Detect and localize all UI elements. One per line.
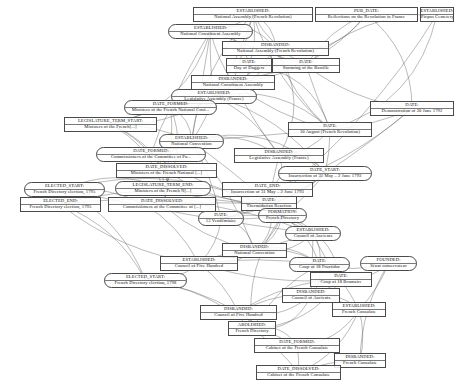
graph-node[interactable]: ESTABLISHED:National Constituent Assembl…: [168, 24, 253, 39]
graph-node[interactable]: DATE:10 August (French Revolution): [288, 122, 372, 137]
node-entity-label: Council of Ancients: [286, 233, 340, 239]
node-entity-label: National Assembly (French Revolution): [194, 14, 312, 20]
graph-node[interactable]: DISBANDED:French Consulate: [334, 353, 386, 368]
node-entity-label: French Directory election, 1798: [105, 280, 186, 286]
graph-node[interactable]: PUB_DATE:Reflections on the Revolution i…: [315, 7, 418, 22]
node-entity-label: Insurrection of 31 May – 2 June 1793: [223, 189, 312, 195]
graph-node[interactable]: DATE:Coup of 18 Fructidor: [289, 257, 350, 272]
graph-node[interactable]: DATE_FORMED:Commissioners of the Committ…: [96, 147, 206, 162]
graph-node[interactable]: DATE:Coup of 18 Brumaire: [310, 272, 372, 287]
node-entity-label: Coup of 18 Fructidor: [290, 264, 349, 270]
node-entity-label: National Convention: [160, 141, 223, 147]
graph-node[interactable]: DATE:Storming of the Bastille: [272, 58, 340, 73]
graph-node[interactable]: DATE_END:Insurrection of 31 May – 2 June…: [222, 182, 313, 197]
graph-node[interactable]: ESTABLISHED:Picpus Cemetery: [420, 7, 454, 22]
graph-node[interactable]: DATE:13 Vendémiaire: [198, 211, 244, 226]
graph-edge: [61, 205, 200, 264]
graph-edge: [306, 66, 330, 130]
graph-node[interactable]: ELECTED_END:French Directory election, 1…: [20, 197, 101, 212]
graph-node[interactable]: DATE_START:Insurrection of 31 May – 2 Ju…: [278, 166, 372, 181]
node-entity-label: French Directory: [259, 215, 306, 221]
node-entity-label: Sénat conservateur: [361, 263, 416, 269]
node-entity-label: Ministers of the French N[...]: [116, 188, 210, 194]
graph-node[interactable]: DATE_DISSOLVED:Ministers of the French N…: [116, 163, 217, 178]
graph-node[interactable]: ESTABLISHED:Council of Ancients: [285, 226, 341, 241]
graph-node[interactable]: DISBANDED:Legislative Assembly (France): [234, 148, 324, 163]
graph-node[interactable]: ELECTED_START:French Directory election,…: [104, 273, 187, 288]
graph-node[interactable]: FORMATION:French Directory: [258, 208, 307, 223]
graph-node[interactable]: LEGISLATURE_TERM_END:Ministers of the Fr…: [115, 181, 211, 196]
node-entity-label: Council of Ancients: [283, 295, 339, 301]
node-entity-label: Ministers of the French National Conf...: [125, 107, 216, 113]
node-entity-label: Council of Five Hundred: [201, 312, 276, 318]
graph-node[interactable]: DISBANDED:National Constituent Assembly: [191, 75, 275, 90]
node-entity-label: Insurrection of 31 May – 2 June 1793: [279, 173, 371, 179]
node-entity-label: National Assembly (French Revolution): [223, 48, 328, 54]
graph-node[interactable]: ELECTED_START:French Directory election,…: [24, 182, 105, 197]
node-entity-label: Coup of 18 Brumaire: [311, 279, 371, 285]
node-entity-label: National Convention: [223, 250, 286, 256]
graph-node[interactable]: DATE_DISSOLVED:Commissioners of the Comm…: [108, 197, 216, 212]
graph-node[interactable]: LEGISLATURE_TERM_START:Ministers of the …: [64, 117, 157, 132]
graph-node[interactable]: DISBANDED:Council of Five Hundred: [200, 305, 277, 320]
graph-node[interactable]: ABOLISHED:French Directory: [228, 321, 276, 336]
node-entity-label: 13 Vendémiaire: [199, 218, 243, 224]
graph-node[interactable]: ESTABLISHED:French Consulate: [332, 302, 386, 317]
graph-node[interactable]: DISBANDED:National Assembly (French Revo…: [222, 41, 329, 56]
node-entity-label: French Directory: [229, 328, 275, 334]
graph-node[interactable]: DATE:Day of Daggers: [226, 58, 272, 73]
graph-node[interactable]: ESTABLISHED:National Assembly (French Re…: [193, 7, 313, 22]
node-entity-label: Legislative Assembly (France): [235, 155, 323, 161]
graph-node[interactable]: DATE_FORMED:Cabinet of the French Consul…: [254, 338, 340, 353]
node-entity-label: Ministers of the French[...]: [65, 124, 156, 130]
node-entity-label: Council of Five Hundred: [161, 263, 237, 269]
graph-edge: [61, 205, 146, 281]
graph-node[interactable]: FOUNDED:Sénat conservateur: [360, 256, 417, 271]
node-entity-label: French Consulate: [335, 360, 385, 366]
node-entity-label: Commissioners of the Committee of [...]: [109, 204, 215, 210]
node-entity-label: National Constituent Assembly: [192, 82, 274, 88]
graph-node[interactable]: DATE_FORMED:Ministers of the French Nati…: [124, 100, 217, 115]
node-entity-label: French Directory election, 1795: [25, 189, 104, 195]
node-entity-label: Picpus Cemetery: [421, 14, 453, 20]
node-entity-label: National Constituent Assembly: [169, 31, 252, 37]
graph-edge: [214, 97, 279, 156]
node-entity-label: Demonstration of 20 June 1792: [371, 108, 453, 114]
graph-node[interactable]: DATE:Demonstration of 20 June 1792: [370, 101, 454, 116]
node-entity-label: French Directory election, 1795: [21, 204, 100, 210]
graph-node[interactable]: DATE_DISSOLVED:Cabinet of the French Con…: [256, 365, 341, 380]
node-entity-label: Commissioners of the Committee of Pu...: [97, 154, 205, 160]
node-entity-label: Reflections on the Revolution in France: [316, 14, 417, 20]
node-entity-label: Day of Daggers: [227, 65, 271, 71]
node-entity-label: Storming of the Bastille: [273, 65, 339, 71]
knowledge-graph-canvas: ESTABLISHED:National Assembly (French Re…: [0, 0, 457, 387]
node-entity-label: French Consulate: [333, 309, 385, 315]
graph-node[interactable]: ESTABLISHED:Council of Five Hundred: [160, 256, 238, 271]
node-entity-label: Cabinet of the French Consulate: [257, 372, 340, 378]
node-entity-label: Cabinet of the French Consulate: [255, 345, 339, 351]
graph-node[interactable]: DISBANDED:Council of Ancients: [282, 288, 340, 303]
node-entity-label: Ministers of the French National [...]: [117, 170, 216, 176]
node-entity-label: 10 August (French Revolution): [289, 129, 371, 135]
